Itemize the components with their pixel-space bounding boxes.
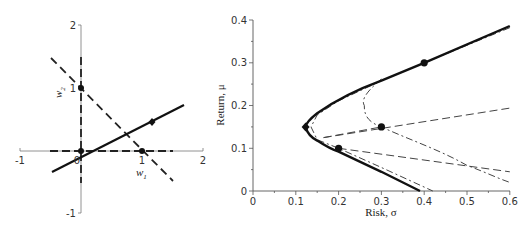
tick-label-y: 0 [241,186,247,197]
dashed-line-upper [324,108,510,138]
tick-label-y-1: 1 [70,83,76,94]
tick-label-y-m1: -1 [66,208,76,219]
tick-label-x-m1: -1 [15,155,25,166]
right-x-ticks [253,191,510,195]
tick-label-y: 0.4 [231,15,247,26]
solid-efficient-frontier [306,26,510,191]
right-y-ticks [249,20,253,191]
dashed-inner-frontier [363,79,509,182]
tick-label-x-2: 2 [200,155,206,166]
marker-dot-w1 [139,148,145,154]
right-chart: 0 0.1 0.2 0.3 0.4 0.5 0.6 0 0.1 0.2 0.3 … [214,15,518,219]
right-y-axis-title: Return, μ [214,84,226,125]
tick-label-y: 0.3 [231,57,247,68]
marker-dot-asset-c [421,59,428,66]
marker-dot-w2 [78,85,84,91]
left-solid-line [52,105,184,172]
left-x-label: w1 [136,166,147,181]
marker-dot-asset-a [335,145,342,152]
tick-label-x: 0.5 [459,196,475,207]
tick-label-y: 0.1 [231,143,247,154]
marker-diamond-min-variance [302,122,310,131]
left-y-label: w2 [52,87,67,98]
tick-label-x: 0.6 [502,196,518,207]
tick-label-x: 0.4 [416,196,432,207]
tick-label-y: 0.2 [231,100,247,111]
marker-dot-origin [78,148,84,154]
dashed-outer-frontier [311,28,510,191]
tick-label-y-2: 2 [70,20,76,31]
tick-label-x-0: 0 [74,155,80,166]
right-x-axis-title: Risk, σ [365,206,397,218]
left-chart: -1 0 1 2 2 1 -1 w1 w2 [15,20,206,219]
tick-label-x: 0.1 [288,196,304,207]
tick-label-x: 0 [250,196,256,207]
tick-label-x-1: 1 [139,155,145,166]
figure: -1 0 1 2 2 1 -1 w1 w2 [0,0,529,229]
tick-label-x: 0.2 [331,196,347,207]
marker-dot-asset-b [378,123,385,130]
